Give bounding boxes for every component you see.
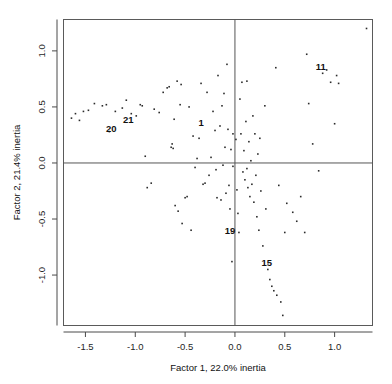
data-point: [192, 135, 194, 137]
data-point: [168, 86, 170, 88]
data-point: [144, 155, 146, 157]
data-point: [236, 189, 238, 191]
data-point: [184, 197, 186, 199]
data-point: [251, 183, 253, 185]
data-point: [177, 210, 179, 212]
data-point: [254, 133, 256, 135]
data-point: [222, 164, 224, 166]
data-point: [94, 103, 96, 105]
data-point: [170, 146, 172, 148]
data-point: [242, 171, 244, 173]
data-point: [216, 197, 218, 199]
data-point: [247, 187, 249, 189]
data-point: [180, 84, 182, 86]
data-point: [241, 81, 243, 83]
data-point: [71, 117, 73, 119]
x-axis-tick-label: 0.5: [278, 341, 291, 352]
y-axis-tick-label: 1.0: [37, 44, 48, 57]
data-point: [257, 153, 259, 155]
data-point: [235, 139, 237, 141]
data-point: [318, 170, 320, 172]
data-point: [246, 80, 248, 82]
data-point: [227, 129, 229, 131]
data-point: [79, 120, 81, 122]
y-axis-title: Factor 2, 21.4% inertia: [11, 124, 22, 220]
data-point: [296, 220, 298, 222]
data-point: [306, 53, 308, 55]
data-point: [126, 99, 128, 101]
x-axis-tick-label: 0.0: [228, 341, 241, 352]
data-point: [231, 261, 233, 263]
data-point: [243, 150, 245, 152]
data-point: [262, 245, 264, 247]
data-point: [249, 196, 251, 198]
data-point: [330, 81, 332, 83]
data-point: [230, 149, 232, 151]
y-axis-tick-label: -0.5: [37, 211, 48, 227]
data-point: [312, 143, 314, 145]
data-point: [278, 185, 280, 187]
data-point: [221, 105, 223, 107]
data-point: [252, 115, 254, 117]
data-point: [304, 232, 306, 234]
data-point: [255, 175, 257, 177]
data-point: [280, 301, 282, 303]
data-point: [206, 92, 208, 94]
data-point: [273, 290, 275, 292]
data-point: [190, 229, 192, 231]
data-point: [173, 118, 175, 120]
data-point: [196, 158, 198, 160]
chart-canvas: -1.5-1.0-0.50.00.51.0Factor 1, 22.0% ine…: [0, 0, 392, 384]
data-point: [181, 223, 183, 225]
x-axis-title: Factor 1, 22.0% inertia: [170, 362, 266, 373]
data-point: [172, 148, 174, 150]
data-point: [292, 211, 294, 213]
y-axis-tick-label: -1.0: [37, 267, 48, 283]
data-point: [146, 187, 148, 189]
data-point: [276, 294, 278, 296]
data-point: [162, 92, 164, 94]
data-point: [366, 28, 368, 30]
data-point: [239, 98, 241, 100]
data-point: [284, 232, 286, 234]
data-point: [194, 167, 196, 169]
data-point: [240, 133, 242, 135]
data-point: [171, 143, 173, 145]
y-axis-tick-label: 0.5: [37, 100, 48, 113]
data-point: [202, 183, 204, 185]
data-point: [139, 104, 141, 106]
data-point-label-11: 11: [316, 61, 327, 72]
data-point: [200, 83, 202, 85]
data-point: [204, 182, 206, 184]
data-point: [88, 109, 90, 111]
data-point: [269, 279, 271, 281]
data-point: [334, 123, 336, 125]
data-point: [153, 108, 155, 110]
data-point: [226, 64, 228, 66]
data-point: [232, 166, 234, 168]
data-point: [225, 192, 227, 194]
data-point: [322, 73, 324, 75]
data-point: [271, 285, 273, 287]
data-point: [141, 105, 143, 107]
data-point: [83, 111, 85, 113]
data-point: [122, 107, 124, 109]
data-point: [186, 196, 188, 198]
data-point-label-19: 19: [225, 225, 236, 236]
y-axis-tick-label: 0.0: [37, 156, 48, 169]
data-point: [260, 190, 262, 192]
data-point: [245, 121, 247, 123]
data-point: [232, 133, 234, 135]
data-point: [267, 269, 269, 271]
data-point: [244, 179, 246, 181]
data-point: [212, 111, 214, 113]
data-point: [210, 157, 212, 159]
data-point: [188, 106, 190, 108]
data-point: [248, 141, 250, 143]
data-point: [228, 185, 230, 187]
data-point: [208, 175, 210, 177]
data-point: [198, 138, 200, 140]
data-point: [220, 199, 222, 201]
data-point: [338, 83, 340, 85]
data-point: [238, 232, 240, 234]
